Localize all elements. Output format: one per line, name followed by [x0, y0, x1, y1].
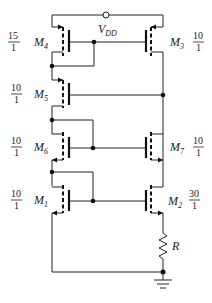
- svg-text:M5: M5: [33, 87, 48, 103]
- svg-text:1: 1: [14, 147, 19, 158]
- label-m1: 10 1 M1: [11, 188, 48, 211]
- label-m2: M2 30 1: [167, 188, 200, 211]
- svg-text:1: 1: [196, 147, 201, 158]
- label-m3: M3 10 1: [169, 30, 204, 53]
- label-m6: 10 1 M6: [11, 135, 48, 158]
- svg-text:M7: M7: [169, 140, 185, 156]
- transistor-m6: [52, 132, 146, 186]
- svg-text:10: 10: [11, 135, 21, 146]
- svg-text:10: 10: [193, 135, 203, 146]
- svg-text:M4: M4: [33, 35, 48, 51]
- resistor-r: [159, 233, 167, 272]
- label-r: R: [171, 239, 180, 253]
- label-m5: 10 1 M5: [11, 82, 48, 105]
- svg-text:10: 10: [193, 30, 203, 41]
- ground-icon: [154, 272, 172, 288]
- circuit-diagram: VDD: [0, 0, 212, 303]
- transistor-m3: [146, 25, 163, 161]
- svg-text:30: 30: [189, 188, 199, 199]
- svg-text:M1: M1: [33, 193, 48, 209]
- svg-text:1: 1: [196, 42, 201, 53]
- svg-text:1: 1: [192, 200, 197, 211]
- vdd-label: VDD: [98, 22, 117, 38]
- svg-text:M3: M3: [169, 35, 184, 51]
- svg-text:M6: M6: [33, 140, 48, 156]
- svg-text:15: 15: [8, 30, 18, 41]
- transistor-m7: [146, 132, 163, 187]
- svg-text:1: 1: [11, 42, 16, 53]
- label-m4: 15 1 M4: [8, 30, 48, 53]
- transistor-m2: [146, 185, 163, 233]
- svg-text:10: 10: [11, 188, 21, 199]
- svg-text:1: 1: [14, 200, 19, 211]
- svg-text:M2: M2: [167, 194, 182, 210]
- transistor-m5: [52, 78, 163, 135]
- label-m7: M7 10 1: [169, 135, 204, 158]
- svg-text:10: 10: [11, 82, 21, 93]
- vdd-terminal: [103, 12, 109, 18]
- svg-text:1: 1: [14, 94, 19, 105]
